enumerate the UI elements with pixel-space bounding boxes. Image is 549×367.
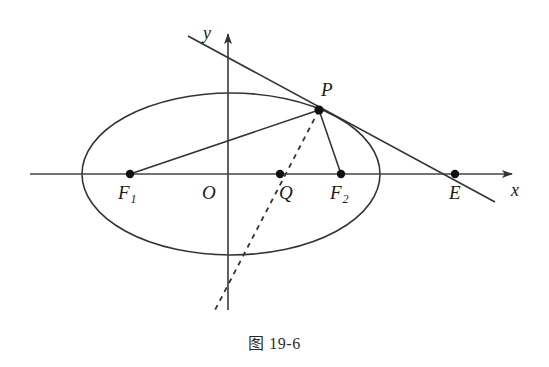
point-f1 — [126, 170, 134, 178]
label-q: Q — [279, 183, 293, 202]
label-q-letter: Q — [279, 182, 293, 203]
label-p-letter: P — [321, 79, 333, 100]
y-axis-label: y — [203, 24, 211, 42]
label-f2: F2 — [330, 183, 348, 202]
figure-caption: 图 19-6 — [0, 330, 549, 354]
label-f1-subscript: 1 — [131, 192, 137, 206]
segment-p-f2 — [319, 110, 341, 174]
label-p: P — [321, 80, 333, 99]
label-e: E — [449, 183, 461, 202]
point-e — [451, 170, 459, 178]
geometry-figure: F1 O Q F2 E P x y 图 19-6 — [0, 0, 549, 367]
label-o-letter: O — [202, 182, 216, 203]
point-f2 — [337, 170, 345, 178]
label-f1-letter: F — [118, 182, 130, 203]
point-p — [314, 105, 323, 114]
label-f2-letter: F — [330, 182, 342, 203]
label-o: O — [202, 183, 216, 202]
label-f2-subscript: 2 — [343, 192, 349, 206]
point-q — [276, 170, 284, 178]
label-f1: F1 — [118, 183, 136, 202]
figure-canvas — [0, 0, 549, 367]
label-e-letter: E — [449, 182, 461, 203]
x-axis-label: x — [511, 181, 519, 199]
